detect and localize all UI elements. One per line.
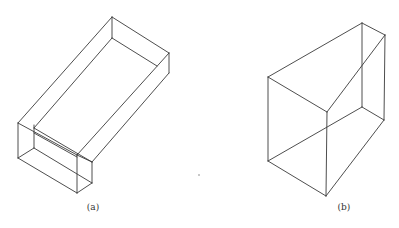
- wireframe-edge: [77, 155, 92, 162]
- wireframe-edge: [362, 107, 384, 120]
- figure-canvas: [0, 0, 399, 228]
- speck-dot: [198, 174, 199, 175]
- figure-b-wireframe: [268, 23, 385, 196]
- caption-a: (a): [87, 202, 99, 212]
- wireframe-edge: [326, 112, 327, 196]
- wireframe-edge: [327, 35, 385, 112]
- wireframe-edge: [268, 23, 362, 77]
- wireframe-edge: [326, 120, 384, 196]
- wireframe-edge: [18, 148, 34, 158]
- figure-a-wireframe: [18, 17, 169, 193]
- wireframe-edge: [268, 161, 326, 196]
- wireframe-edge: [34, 128, 92, 162]
- wireframe-edge: [362, 23, 385, 35]
- wireframe-edge: [268, 77, 327, 112]
- wireframe-edge: [268, 107, 362, 161]
- wireframe-edge: [34, 148, 92, 183]
- wireframe-edge: [92, 73, 169, 162]
- wireframe-edge: [77, 183, 92, 193]
- wireframe-edge: [384, 35, 385, 120]
- wireframe-edge: [18, 158, 77, 193]
- wireframe-edge: [34, 133, 77, 157]
- wireframe-edge: [18, 17, 112, 123]
- caption-b: (b): [338, 202, 351, 212]
- wireframe-edge: [112, 38, 157, 66]
- wireframe-edge: [18, 123, 77, 155]
- wireframe-edge: [77, 53, 169, 155]
- wireframe-edge: [112, 17, 169, 53]
- scan-speck: [198, 174, 199, 175]
- wireframe-edge: [34, 38, 112, 128]
